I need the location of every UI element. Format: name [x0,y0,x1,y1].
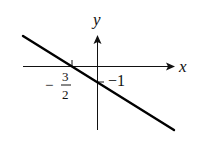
y-axis-label: y [91,10,101,29]
graph-canvas: y x − 3 2 −1 [0,0,201,148]
x-intercept-denominator: 2 [62,87,69,102]
y-intercept-label: −1 [108,72,125,89]
x-axis-label: x [178,57,187,76]
x-intercept-numerator: 3 [62,69,69,84]
x-intercept-sign: − [45,77,53,93]
